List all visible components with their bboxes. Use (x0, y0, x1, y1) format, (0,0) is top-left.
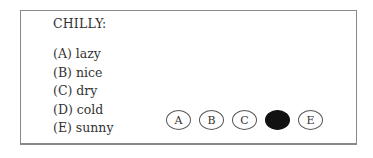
option-a: (A) lazy (53, 45, 113, 64)
option-c: (C) dry (53, 82, 113, 101)
bubble-a[interactable]: A (166, 110, 191, 130)
option-e: (E) sunny (53, 119, 113, 138)
bubble-b[interactable]: B (199, 110, 224, 130)
bubble-e[interactable]: E (298, 110, 323, 130)
bubble-c[interactable]: C (232, 110, 257, 130)
bubble-d-filled[interactable]: D (265, 110, 290, 130)
question-stem: CHILLY: (53, 16, 107, 31)
options-list: (A) lazy (B) nice (C) dry (D) cold (E) s… (53, 45, 113, 138)
answer-bubbles: A B C D E (166, 110, 323, 130)
option-d: (D) cold (53, 101, 113, 120)
option-b: (B) nice (53, 64, 113, 83)
